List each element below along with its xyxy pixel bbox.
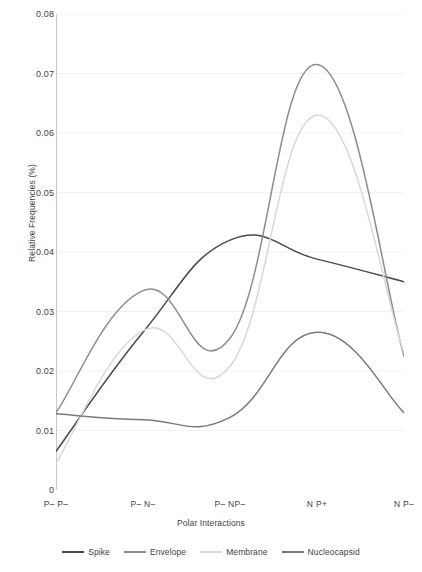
y-axis-tick-7: 0.07 <box>12 69 54 79</box>
legend-label: Envelope <box>150 547 186 557</box>
y-axis-tick-1: 0.01 <box>12 426 54 436</box>
y-axis-tick-2: 0.02 <box>12 366 54 376</box>
x-axis-tick-1: P– N– <box>130 499 155 509</box>
legend-label: Spike <box>88 547 110 557</box>
chart-container: Relative Frequencies (%) 00.010.020.030.… <box>0 0 422 572</box>
legend-item-membrane[interactable]: Membrane <box>193 547 274 557</box>
y-axis-tick-3: 0.03 <box>12 307 54 317</box>
legend-label: Membrane <box>226 547 267 557</box>
series-line-nucleocapsid <box>56 332 404 427</box>
chart-legend: SpikeEnvelopeMembraneNucleocapsid <box>0 547 422 557</box>
x-axis-tick-3: N P+ <box>307 499 327 509</box>
x-axis-title: Polar Interactions <box>0 518 422 528</box>
x-axis-tick-2: P– NP– <box>214 499 245 509</box>
x-axis-tick-0: P– P– <box>44 499 69 509</box>
x-axis-tick-4: N P– <box>394 499 414 509</box>
y-axis-tick-5: 0.05 <box>12 188 54 198</box>
legend-swatch-icon <box>124 551 146 553</box>
legend-swatch-icon <box>200 551 222 553</box>
legend-item-envelope[interactable]: Envelope <box>117 547 193 557</box>
series-line-envelope <box>56 65 404 413</box>
legend-swatch-icon <box>62 551 84 553</box>
y-axis-tick-4: 0.04 <box>12 247 54 257</box>
plot-area <box>56 14 404 490</box>
y-axis-tick-8: 0.08 <box>12 9 54 19</box>
legend-item-nucleocapsid[interactable]: Nucleocapsid <box>275 547 367 557</box>
chart-svg <box>56 14 404 490</box>
y-axis-tick-6: 0.06 <box>12 128 54 138</box>
legend-item-spike[interactable]: Spike <box>55 547 117 557</box>
legend-label: Nucleocapsid <box>308 547 360 557</box>
y-axis-tick-labels: 00.010.020.030.040.050.060.070.08 <box>10 0 54 572</box>
y-axis-tick-0: 0 <box>12 485 54 495</box>
series-line-membrane <box>56 115 404 463</box>
legend-swatch-icon <box>282 551 304 553</box>
